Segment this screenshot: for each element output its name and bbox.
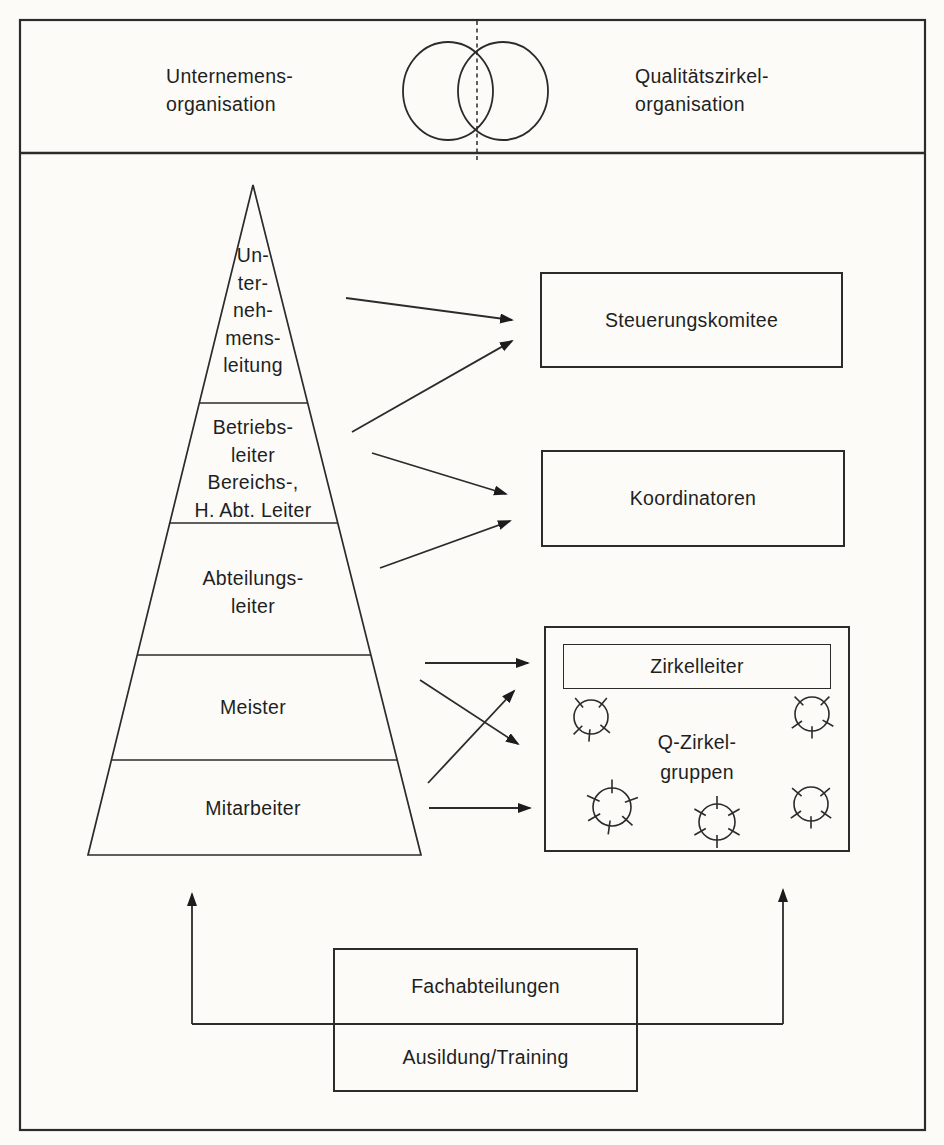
arrow-betriebsleiter-to-coordinators bbox=[372, 453, 506, 494]
pyramid-level-mitarbeiter: Mitarbeiter bbox=[153, 794, 353, 822]
company-organisation-label: Unternemens- organisation bbox=[166, 62, 293, 118]
arrow-mitarbeiter-to-circle-leader bbox=[428, 691, 514, 783]
pyramid-level-unternehmensleitung: Un- ter- neh- mens- leitung bbox=[153, 242, 353, 380]
diagram-page: Unternemens- organisation Qualitätszirke… bbox=[0, 0, 944, 1145]
steering-committee-label: Steuerungskomitee bbox=[605, 309, 778, 332]
arrow-meister-to-groups bbox=[420, 680, 518, 744]
arrow-abteilungsleiter-to-coordinators bbox=[380, 521, 510, 568]
quality-circle-organisation-line2: organisation bbox=[635, 90, 769, 118]
venn-circles-icon bbox=[403, 42, 548, 140]
departments-label: Fachabteilungen bbox=[411, 975, 560, 998]
quality-circle-organisation-label: Qualitätszirkel- organisation bbox=[635, 62, 769, 118]
coordinators-box: Koordinatoren bbox=[541, 450, 845, 547]
coordinators-label: Koordinatoren bbox=[630, 487, 756, 510]
arrow-betriebsleiter-to-steering bbox=[352, 341, 512, 432]
pyramid-level-betriebsleiter: Betriebs- leiter Bereichs-, H. Abt. Leit… bbox=[153, 414, 353, 524]
steering-committee-box: Steuerungskomitee bbox=[540, 272, 843, 368]
circle-leader-label: Zirkelleiter bbox=[650, 655, 744, 678]
quality-circle-organisation-line1: Qualitätszirkel- bbox=[635, 62, 769, 90]
company-organisation-line2: organisation bbox=[166, 90, 293, 118]
q-circle-groups-label: Q-Zirkel- gruppen bbox=[597, 727, 797, 787]
mapping-arrows bbox=[346, 298, 530, 808]
departments-label-area: Fachabteilungen bbox=[333, 950, 638, 1022]
training-label-area: Ausildung/Training bbox=[333, 1025, 638, 1090]
training-label: Ausildung/Training bbox=[402, 1046, 568, 1069]
circle-leader-box: Zirkelleiter bbox=[563, 644, 831, 689]
pyramid-level-meister: Meister bbox=[153, 693, 353, 721]
company-organisation-line1: Unternemens- bbox=[166, 62, 293, 90]
arrow-leitung-to-steering bbox=[346, 298, 512, 320]
pyramid-level-abteilungsleiter: Abteilungs- leiter bbox=[153, 564, 353, 620]
